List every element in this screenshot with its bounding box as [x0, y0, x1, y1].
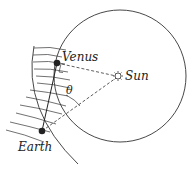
right-angle-marker	[59, 64, 63, 73]
venus-earth-line	[42, 63, 57, 131]
sun-icon	[113, 71, 123, 81]
venus-label: Venus	[62, 51, 98, 63]
earth-dot	[39, 128, 46, 135]
angle-theta-label: θ	[66, 85, 73, 96]
sun-label: Sun	[125, 70, 149, 82]
earth-label: Earth	[18, 141, 52, 153]
venus-dot	[54, 60, 61, 67]
venus-orbit	[54, 10, 186, 142]
venus-sun-line	[57, 63, 116, 76]
hatching	[6, 47, 70, 142]
venus-earth-sun-diagram: Venus Sun Earth θ	[0, 0, 188, 172]
